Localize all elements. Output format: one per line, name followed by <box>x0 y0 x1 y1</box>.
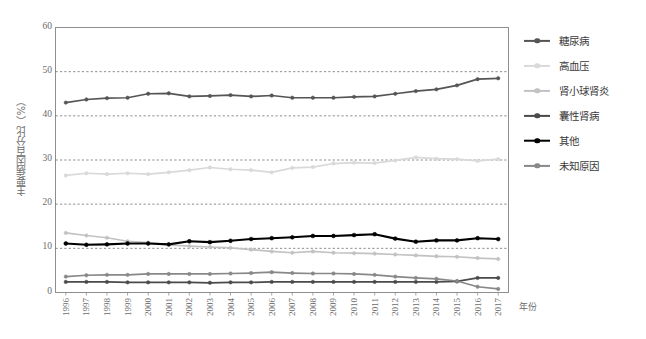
series-marker <box>311 96 314 99</box>
series-marker <box>455 84 458 87</box>
series-marker <box>435 157 438 160</box>
x-tick-label: 1998 <box>102 298 112 316</box>
legend-label: 其他 <box>559 133 579 148</box>
series-marker <box>291 96 294 99</box>
series-marker <box>64 275 67 278</box>
series-marker <box>126 172 129 175</box>
series-marker <box>476 256 479 259</box>
series-marker <box>229 168 232 171</box>
series-marker <box>476 77 479 80</box>
legend-swatch-icon <box>524 85 550 97</box>
legend-item-4[interactable]: 其他 <box>524 128 644 153</box>
x-tick-label: 1999 <box>123 298 133 316</box>
series-marker <box>85 274 88 277</box>
series-marker <box>352 251 355 254</box>
series-marker <box>84 243 88 247</box>
series-marker <box>249 95 252 98</box>
series-marker <box>394 159 397 162</box>
series-marker <box>126 273 129 276</box>
series-marker <box>352 233 356 237</box>
series-marker <box>188 95 191 98</box>
series-marker <box>394 280 397 283</box>
series-marker <box>414 276 417 279</box>
x-tick-label: 2006 <box>267 298 277 316</box>
series-marker <box>311 280 314 283</box>
chart-legend: 糖尿病高血压肾小球肾炎囊性肾病其他未知原因 <box>524 28 644 178</box>
series-marker <box>105 242 109 246</box>
series-marker <box>270 236 274 240</box>
series-marker <box>85 234 88 237</box>
series-marker <box>373 280 376 283</box>
series-marker <box>229 246 232 249</box>
series-marker <box>291 271 294 274</box>
series-marker <box>105 172 108 175</box>
legend-swatch-icon <box>524 35 550 47</box>
series-marker <box>270 94 273 97</box>
series-marker <box>270 171 273 174</box>
legend-label: 未知原因 <box>559 158 599 173</box>
series-marker <box>167 281 170 284</box>
series-marker <box>146 172 149 175</box>
series-marker <box>188 168 191 171</box>
series-marker <box>373 252 376 255</box>
series-marker <box>249 281 252 284</box>
series-marker <box>85 98 88 101</box>
series-marker <box>455 279 458 282</box>
series-marker <box>229 272 232 275</box>
legend-item-2[interactable]: 肾小球肾炎 <box>524 78 644 103</box>
legend-item-5[interactable]: 未知原因 <box>524 153 644 178</box>
series-marker <box>394 253 397 256</box>
series-marker <box>476 236 480 240</box>
legend-label: 囊性肾病 <box>559 108 599 123</box>
series-marker <box>229 239 233 243</box>
legend-item-1[interactable]: 高血压 <box>524 53 644 78</box>
series-marker <box>146 242 150 246</box>
series-marker <box>167 92 170 95</box>
series-marker <box>455 157 458 160</box>
series-marker <box>85 280 88 283</box>
series-marker <box>497 157 500 160</box>
series-marker <box>208 281 211 284</box>
series-marker <box>146 92 149 95</box>
x-tick-label: 2009 <box>328 298 338 316</box>
series-marker <box>249 248 252 251</box>
legend-label: 肾小球肾炎 <box>559 83 609 98</box>
series-marker <box>332 96 335 99</box>
series-marker <box>126 242 130 246</box>
series-marker <box>497 257 500 260</box>
series-marker <box>208 166 211 169</box>
legend-swatch-icon <box>524 60 550 72</box>
series-marker <box>497 287 500 290</box>
series-marker <box>270 270 273 273</box>
series-marker <box>188 272 191 275</box>
x-axis-title: 年份 <box>519 300 537 313</box>
chart-container: 主要病因百分比（%） 0102030405060 199619971998199… <box>0 0 646 339</box>
x-tick-label: 2014 <box>431 298 441 316</box>
series-marker <box>332 251 335 254</box>
x-tick-label: 2004 <box>226 298 236 316</box>
series-marker <box>290 235 294 239</box>
series-marker <box>332 162 335 165</box>
series-marker <box>414 156 417 159</box>
series-marker <box>435 238 439 242</box>
legend-swatch-icon <box>524 110 550 122</box>
legend-item-3[interactable]: 囊性肾病 <box>524 103 644 128</box>
series-marker <box>496 237 500 241</box>
legend-item-0[interactable]: 糖尿病 <box>524 28 644 53</box>
series-marker <box>208 240 212 244</box>
series-marker <box>352 280 355 283</box>
legend-label: 糖尿病 <box>559 33 589 48</box>
series-marker <box>126 281 129 284</box>
legend-swatch-icon <box>524 160 550 172</box>
series-marker <box>352 161 355 164</box>
series-marker <box>414 280 417 283</box>
series-marker <box>64 101 67 104</box>
x-tick-label: 2010 <box>349 298 359 316</box>
series-marker <box>167 171 170 174</box>
series-marker <box>208 272 211 275</box>
x-tick-label: 2005 <box>246 298 256 316</box>
series-marker <box>497 276 500 279</box>
x-tick-label: 2012 <box>390 298 400 316</box>
series-marker <box>497 77 500 80</box>
series-marker <box>146 281 149 284</box>
